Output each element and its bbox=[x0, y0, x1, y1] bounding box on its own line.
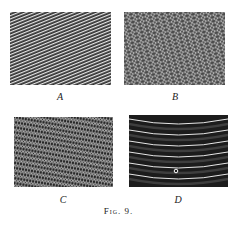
panel-a-label: A bbox=[50, 92, 70, 102]
panel-b-image bbox=[124, 12, 225, 85]
panel-a-image bbox=[10, 12, 111, 85]
panel-c-label: C bbox=[53, 195, 73, 205]
figure-caption: Fig. 9. bbox=[80, 206, 157, 216]
panel-c-image bbox=[14, 117, 113, 187]
panel-d-image bbox=[129, 115, 228, 187]
panel-d-label: D bbox=[168, 195, 188, 205]
panel-b-label: B bbox=[165, 92, 185, 102]
